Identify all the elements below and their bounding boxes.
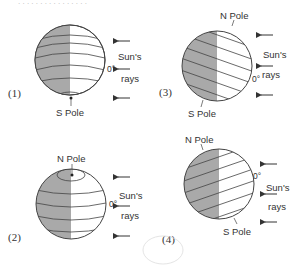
sun-label-3b: rays [262, 69, 280, 80]
equator-label-1: 0° [107, 64, 115, 74]
pole-top-label-3: N Pole [220, 10, 249, 21]
pole-bottom-label-3: S Pole [188, 108, 216, 119]
equator-label-4: 0° [253, 171, 261, 181]
header-fragment: . . . . . . . . . . . . . . . . [18, 0, 87, 6]
sun-label-1b: rays [121, 73, 139, 84]
sun-label-4b: rays [268, 201, 286, 212]
globe-3 [175, 20, 260, 122]
diagram-label-3: (3) [159, 86, 172, 99]
diagram-label-1: (1) [8, 87, 21, 100]
globe-2 [36, 164, 106, 239]
diagram-label-2: (2) [8, 231, 21, 244]
sun-label-4a: Sun's [266, 182, 290, 193]
sun-label-1a: Sun's [118, 51, 142, 62]
globe-1 [35, 25, 105, 106]
pole-top-label-4: N Pole [185, 134, 214, 145]
equator-label-2: 0° [109, 199, 117, 209]
pole-label-2: N Pole [57, 153, 86, 164]
sun-label-2b: rays [121, 210, 139, 221]
sun-ray-arrows-1 [118, 41, 130, 98]
sun-ray-arrows-4 [265, 164, 277, 222]
sun-ray-arrows-2 [118, 177, 130, 236]
sun-label-3a: Sun's [263, 49, 287, 60]
sun-label-2a: Sun's [119, 190, 143, 201]
pole-label-1: S Pole [56, 107, 84, 118]
equator-label-3: 0° [252, 74, 260, 84]
pole-bottom-label-4: S Pole [223, 226, 251, 237]
diagram-label-4: (4) [162, 233, 175, 246]
sun-ray-arrows-3 [261, 35, 273, 95]
diagram-canvas: . . . . . . . . . . . . . . . . S Pole (… [0, 0, 303, 271]
